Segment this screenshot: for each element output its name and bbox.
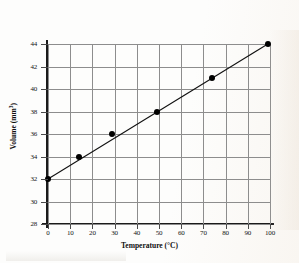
- x-axis-tick-label: 0: [37, 229, 59, 237]
- y-axis-tick: [41, 202, 48, 203]
- y-axis-tick-label: 42: [13, 63, 37, 71]
- y-axis-tick-label: 44: [13, 40, 37, 48]
- scan-edge-shading: [269, 30, 299, 230]
- data-point: [265, 41, 271, 47]
- y-axis-title-tail: ): [9, 103, 18, 106]
- y-axis-tick: [41, 67, 48, 68]
- data-point: [209, 75, 215, 81]
- y-axis-tick: [41, 112, 48, 113]
- x-axis-tick-label: 80: [215, 229, 237, 237]
- x-axis-title: Temperature (°C): [0, 241, 299, 250]
- gridline-vertical: [270, 44, 271, 224]
- x-axis-tick-label: 70: [192, 229, 214, 237]
- y-axis-title: Volume (mm3): [8, 91, 19, 161]
- trend-line: [48, 44, 270, 224]
- y-axis-tick: [41, 179, 48, 180]
- x-axis-tick-label: 10: [59, 229, 81, 237]
- x-axis-tick-label: 30: [104, 229, 126, 237]
- y-axis-tick: [41, 89, 48, 90]
- y-axis-tick: [41, 224, 48, 225]
- x-axis-tick-label: 20: [81, 229, 103, 237]
- x-axis-tick-label: 50: [148, 229, 170, 237]
- data-point: [76, 154, 82, 160]
- data-point: [154, 109, 160, 115]
- x-axis-tick-label: 100: [259, 229, 281, 237]
- y-axis-tick: [41, 157, 48, 158]
- plot-area: [48, 44, 270, 224]
- x-axis-tick-label: 60: [170, 229, 192, 237]
- y-axis-tick-label: 28: [13, 220, 37, 228]
- y-axis-tick: [41, 134, 48, 135]
- x-axis-tick-label: 90: [237, 229, 259, 237]
- y-axis-title-exponent: 3: [8, 106, 14, 109]
- chart-figure: 283032343638404244 010203040506070809010…: [0, 0, 299, 263]
- y-axis-tick-label: 32: [13, 175, 37, 183]
- x-axis-tick-label: 40: [126, 229, 148, 237]
- y-axis-tick-label: 30: [13, 198, 37, 206]
- y-axis-tick: [41, 44, 48, 45]
- scan-bottom-shading: [6, 251, 126, 261]
- y-axis-title-text: Volume (mm: [9, 108, 18, 149]
